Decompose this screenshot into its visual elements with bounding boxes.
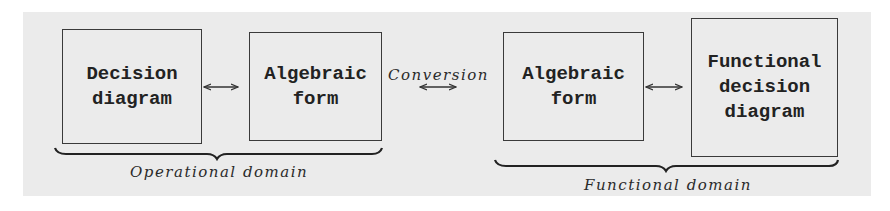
algebraic-form-operational-box: Algebraic form — [249, 32, 382, 141]
functional-decision-diagram-box: Functional decision diagram — [691, 18, 838, 157]
decision-diagram-box: Decision diagram — [62, 29, 202, 144]
algebraic-form-functional-box: Algebraic form — [503, 32, 644, 141]
functional-domain-label: Functional domain — [584, 176, 752, 194]
operational-domain-label: Operational domain — [130, 163, 308, 181]
conversion-label: Conversion — [388, 66, 489, 84]
